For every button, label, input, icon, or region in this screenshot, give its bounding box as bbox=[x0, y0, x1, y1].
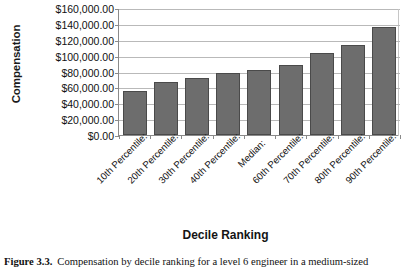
x-axis-tick-labels: 10th Percentile:20th Percentile:30th Per… bbox=[118, 139, 399, 224]
bar bbox=[372, 27, 396, 135]
bar bbox=[310, 53, 334, 135]
bar-slot bbox=[119, 8, 150, 135]
bar-slot bbox=[369, 8, 400, 135]
bar bbox=[279, 65, 303, 135]
x-axis-title: Decile Ranking bbox=[0, 228, 407, 242]
bar bbox=[185, 78, 209, 135]
x-axis-title-text: Decile Ranking bbox=[182, 228, 268, 242]
bar bbox=[154, 82, 178, 135]
figure-container: Compensation $160,000.00 $140,000.00 $12… bbox=[0, 0, 407, 274]
bar bbox=[123, 91, 147, 135]
bar-slot bbox=[244, 8, 275, 135]
bar bbox=[216, 73, 240, 135]
bar-slot bbox=[275, 8, 306, 135]
y-tick-label: $20,000.00 bbox=[30, 115, 114, 125]
bar bbox=[247, 70, 271, 135]
bar-slot bbox=[306, 8, 337, 135]
y-tick-label: $0.00 bbox=[30, 131, 114, 141]
y-tick-label: $40,000.00 bbox=[30, 99, 114, 109]
y-tick-label: $120,000.00 bbox=[30, 36, 114, 46]
figure-caption: Figure 3.3.Compensation by decile rankin… bbox=[4, 256, 404, 267]
y-tick-label: $100,000.00 bbox=[30, 52, 114, 62]
y-tick-label: $60,000.00 bbox=[30, 83, 114, 93]
y-tick-label: $140,000.00 bbox=[30, 20, 114, 30]
y-tick-label: $160,000.00 bbox=[30, 4, 114, 14]
figure-caption-label: Figure 3.3. bbox=[4, 256, 52, 267]
plot-area bbox=[118, 9, 399, 136]
figure-caption-text: Compensation by decile ranking for a lev… bbox=[57, 256, 368, 267]
y-axis-title: Compensation bbox=[10, 4, 22, 124]
y-axis-tick-labels: $160,000.00 $140,000.00 $120,000.00 $100… bbox=[30, 0, 114, 145]
bar-slot bbox=[338, 8, 369, 135]
bar-slot bbox=[150, 8, 181, 135]
y-tick-label: $80,000.00 bbox=[30, 68, 114, 78]
bar-slot bbox=[213, 8, 244, 135]
bar-slot bbox=[182, 8, 213, 135]
bar bbox=[341, 45, 365, 135]
x-tickmark bbox=[400, 135, 401, 139]
bar-series bbox=[119, 8, 400, 135]
